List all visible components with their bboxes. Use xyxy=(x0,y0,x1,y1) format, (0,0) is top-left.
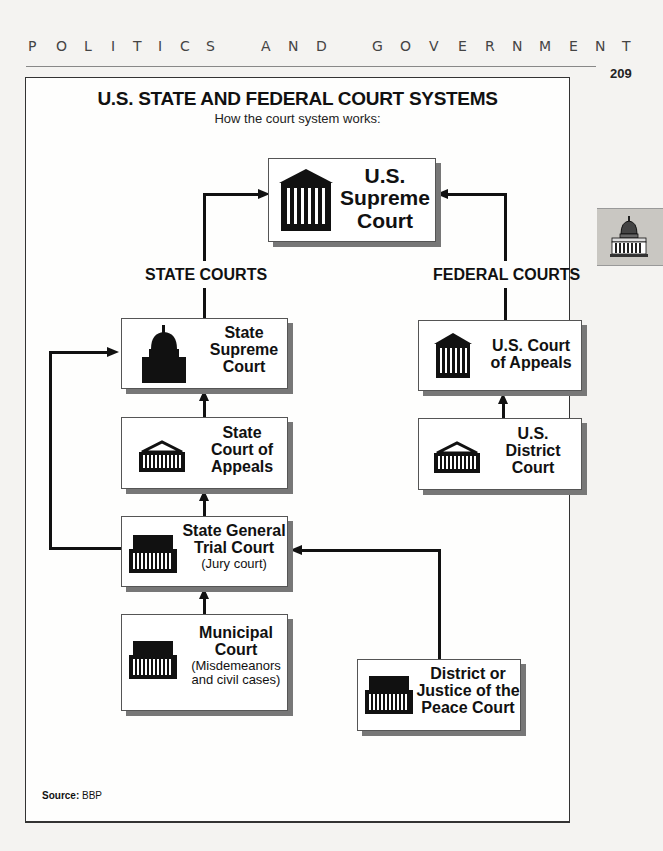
node-label-line: District or xyxy=(416,666,520,683)
flat-roof-courthouse-icon xyxy=(129,535,177,573)
node-label-line: of Appeals xyxy=(483,355,579,372)
arrow-into-state-supreme-left xyxy=(107,347,119,357)
connector-peace-horizontal xyxy=(300,549,441,552)
flat-roof-courthouse-icon xyxy=(129,641,177,679)
node-label-line: Municipal xyxy=(184,625,288,642)
state-courts-label: STATE COURTS xyxy=(145,266,267,284)
running-head-letter: N xyxy=(288,38,298,54)
running-head-letter: L xyxy=(84,38,92,54)
running-head-letter: T xyxy=(133,38,142,54)
source-value: BBP xyxy=(82,790,102,801)
node-label-line: Trial Court xyxy=(180,540,288,557)
arrow-into-state-trial-right xyxy=(290,545,302,555)
capitol-dome-icon xyxy=(142,325,186,383)
page-number: 209 xyxy=(610,66,632,81)
columned-courthouse-icon xyxy=(277,167,335,231)
diagram-title: U.S. STATE AND FEDERAL COURT SYSTEMS xyxy=(25,88,570,110)
node-label-line: Court xyxy=(184,642,288,659)
node-us-court-of-appeals: U.S. Court of Appeals xyxy=(418,320,582,391)
node-us-supreme-court: U.S. Supreme Court xyxy=(268,158,436,242)
connector-state-vertical-lower xyxy=(203,288,206,318)
running-head-letter: S xyxy=(206,38,215,54)
running-head-letter: O xyxy=(56,38,67,54)
node-note: (Jury court) xyxy=(180,557,288,572)
node-state-court-of-appeals: State Court of Appeals xyxy=(121,417,288,489)
connector-state-vertical-upper xyxy=(203,193,206,261)
node-state-supreme-court: State Supreme Court xyxy=(121,318,288,389)
node-label-line: Justice of the xyxy=(416,683,520,700)
running-head-letter: P xyxy=(28,38,36,54)
node-label-line: State xyxy=(200,325,288,342)
node-label-line: Appeals xyxy=(194,459,290,476)
chapter-thumb-tab xyxy=(597,208,663,266)
connector-trial-left-vertical xyxy=(49,351,52,550)
pediment-courthouse-icon xyxy=(137,440,187,472)
node-municipal-court: Municipal Court (Misdemeanors and civil … xyxy=(121,614,288,711)
running-head-letter: R xyxy=(485,38,495,54)
source-note: Source: BBP xyxy=(42,790,102,801)
running-head-letter: D xyxy=(316,38,327,54)
node-label-line: Peace Court xyxy=(416,700,520,717)
node-label-line: U.S. xyxy=(493,426,573,443)
node-label-line: U.S. Court xyxy=(483,338,579,355)
arrow-into-state-appeals xyxy=(199,490,209,501)
connector-federal-vertical-lower xyxy=(504,288,507,320)
running-head-letter: T xyxy=(622,38,631,54)
running-head-letter: G xyxy=(372,38,383,54)
node-label-line: Court of xyxy=(194,442,290,459)
node-note: and civil cases) xyxy=(184,673,288,688)
arrow-into-us-supreme-right xyxy=(436,189,448,199)
running-head-letter: I xyxy=(158,38,162,54)
columned-courthouse-icon xyxy=(433,332,473,378)
node-label-line: Court xyxy=(200,359,288,376)
node-label-line: Supreme xyxy=(337,187,433,209)
node-label-line: State General xyxy=(180,523,288,540)
node-label-line: U.S. xyxy=(337,165,433,187)
node-label-line: Supreme xyxy=(200,342,288,359)
connector-trial-left-horizontal xyxy=(49,547,122,550)
node-district-or-justice-of-the-peace-court: District or Justice of the Peace Court xyxy=(357,659,521,731)
running-head-letter: C xyxy=(180,38,190,54)
running-head-letter: N xyxy=(595,38,605,54)
arrow-into-us-appeals xyxy=(498,393,508,404)
connector-federal-vertical-upper xyxy=(504,193,507,261)
connector-state-horizontal xyxy=(203,193,263,196)
connector-peace-vertical xyxy=(438,549,441,659)
running-head-letter: A xyxy=(261,38,271,54)
diagram-subtitle: How the court system works: xyxy=(25,111,570,126)
flat-roof-courthouse-icon xyxy=(365,676,413,714)
connector-left-top-horizontal xyxy=(49,351,109,354)
running-head-letter: V xyxy=(429,38,439,54)
running-head-letter: I xyxy=(111,38,115,54)
node-label-line: District xyxy=(493,443,573,460)
node-label-line: Court xyxy=(337,210,433,232)
node-us-district-court: U.S. District Court xyxy=(418,418,582,490)
running-head-letter: E xyxy=(458,38,467,54)
federal-courts-label: FEDERAL COURTS xyxy=(433,266,580,284)
running-head-letter: N xyxy=(512,38,522,54)
node-label-line: State xyxy=(194,425,290,442)
capitol-building-icon xyxy=(609,214,649,258)
node-state-general-trial-court: State General Trial Court (Jury court) xyxy=(121,516,288,587)
pediment-courthouse-icon xyxy=(432,441,482,473)
running-head-letter: M xyxy=(539,38,551,54)
running-head-letter: E xyxy=(569,38,578,54)
node-label-line: Court xyxy=(493,460,573,477)
connector-federal-horizontal xyxy=(447,193,507,196)
source-label: Source: xyxy=(42,790,79,801)
header-rule xyxy=(26,66,596,67)
arrow-into-state-supreme xyxy=(199,390,209,401)
arrow-into-state-trial-from-municipal xyxy=(199,588,209,599)
node-note: (Misdemeanors xyxy=(184,659,288,674)
running-head-letter: O xyxy=(400,38,411,54)
